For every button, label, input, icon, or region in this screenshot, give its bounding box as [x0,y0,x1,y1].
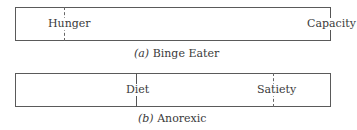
caption-text: Anorexic [157,112,206,125]
caption-text: Binge Eater [153,47,220,60]
hunger-label: Hunger [47,18,92,30]
diet-label: Diet [125,84,150,96]
satiety-label: Satiety [256,84,297,96]
caption-anorexic: (b) Anorexic [138,113,206,125]
capacity-label: Capacity [306,18,357,30]
caption-letter: (a) [134,47,149,60]
caption-letter: (b) [138,112,154,125]
caption-binge-eater: (a) Binge Eater [134,48,219,60]
